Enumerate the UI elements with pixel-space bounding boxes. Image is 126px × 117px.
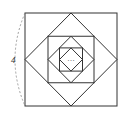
center-ellipsis: … xyxy=(67,54,75,63)
side-length-label: 4 xyxy=(11,55,16,65)
nested-squares-diagram: 4 … xyxy=(0,0,126,117)
side-length-arc xyxy=(15,13,25,106)
